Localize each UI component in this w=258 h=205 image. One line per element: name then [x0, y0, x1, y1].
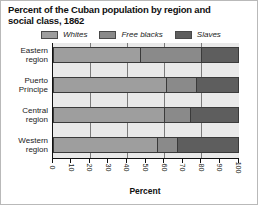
bar-puerto-pr-ncipe [53, 77, 239, 93]
tick-label: 40 [123, 158, 130, 178]
legend-item-slaves: Slaves [175, 30, 221, 39]
tick-label: 60 [160, 158, 167, 178]
segment-free-blacks [140, 48, 201, 62]
category-label: Westernregion [1, 136, 48, 154]
slaves-swatch-icon [175, 31, 192, 39]
category-label: Centralregion [1, 106, 48, 124]
bar-central-region [53, 107, 239, 123]
legend: Whites Free blacks Slaves [41, 29, 255, 40]
bar-eastern-region [53, 47, 239, 63]
segment-free-blacks [164, 108, 190, 122]
segment-slaves [196, 78, 238, 92]
tick-label: 10 [67, 158, 74, 178]
segment-slaves [201, 48, 238, 62]
category-label: PuertoPríncipe [1, 76, 48, 94]
legend-item-free-blacks: Free blacks [99, 30, 162, 39]
segment-whites [54, 78, 166, 92]
segment-slaves [177, 138, 238, 152]
segment-slaves [190, 108, 238, 122]
chart-figure: { "title": "Percent of the Cuban populat… [0, 0, 258, 205]
segment-free-blacks [166, 78, 195, 92]
segment-whites [54, 48, 140, 62]
bar-western-region [53, 137, 239, 153]
legend-label: Slaves [197, 30, 221, 39]
legend-label: Free blacks [121, 30, 162, 39]
plot-area [52, 43, 239, 159]
chart-title: Percent of the Cuban population by regio… [8, 4, 236, 26]
tick-label: 70 [179, 158, 186, 178]
tick-label: 100 [235, 158, 242, 178]
tick-label: 0 [49, 158, 56, 178]
segment-free-blacks [157, 138, 177, 152]
whites-swatch-icon [41, 31, 58, 39]
tick-label: 90 [216, 158, 223, 178]
free-blacks-swatch-icon [99, 31, 116, 39]
tick-label: 20 [86, 158, 93, 178]
segment-whites [54, 138, 157, 152]
category-label: Easternregion [1, 46, 48, 64]
segment-whites [54, 108, 164, 122]
tick-label: 30 [104, 158, 111, 178]
legend-label: Whites [63, 30, 87, 39]
tick-label: 80 [197, 158, 204, 178]
tick-label: 50 [142, 158, 149, 178]
legend-item-whites: Whites [41, 30, 87, 39]
x-axis-title: Percent [52, 186, 238, 196]
